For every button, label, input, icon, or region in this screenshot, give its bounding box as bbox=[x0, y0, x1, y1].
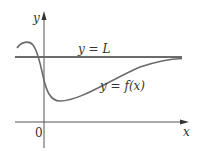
x-axis-label: x bbox=[183, 125, 190, 139]
y-axis-arrow-icon bbox=[42, 11, 47, 20]
curve-label: y = f(x) bbox=[99, 79, 145, 93]
asymptote-label: y = L bbox=[77, 42, 110, 56]
y-axis-label: y bbox=[32, 11, 40, 25]
horizontal-asymptote-diagram: y x 0 y = L y = f(x) bbox=[0, 0, 199, 151]
origin-label: 0 bbox=[35, 126, 43, 140]
x-axis-arrow-icon bbox=[180, 120, 189, 125]
